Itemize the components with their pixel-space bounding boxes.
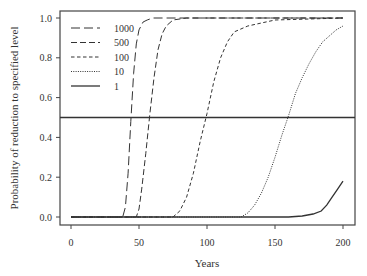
y-axis-title: Probability of reduction to specified le…: [8, 27, 20, 210]
legend-label: 500: [114, 37, 129, 48]
y-tick-label: 1.0: [40, 13, 53, 24]
plot-lines: [60, 18, 355, 217]
x-tick-label: 50: [134, 237, 144, 248]
legend: 1000500100101: [71, 23, 134, 92]
x-axis: 050100150200: [69, 225, 351, 248]
x-tick-label: 100: [200, 237, 215, 248]
y-tick-label: 0.2: [40, 172, 53, 183]
y-tick-label: 0.6: [40, 92, 53, 103]
x-tick-label: 150: [268, 237, 283, 248]
legend-label: 1: [114, 81, 119, 92]
chart: 0.00.20.40.60.81.0 050100150200 10005001…: [0, 0, 367, 276]
legend-label: 1000: [114, 23, 134, 34]
series-line-10: [71, 26, 343, 217]
x-axis-title: Years: [195, 257, 220, 269]
x-tick-label: 0: [69, 237, 74, 248]
legend-label: 10: [114, 66, 124, 77]
y-axis: 0.00.20.40.60.81.0: [40, 13, 61, 223]
x-tick-label: 200: [336, 237, 351, 248]
y-tick-label: 0.4: [40, 132, 53, 143]
series-line-1: [71, 181, 343, 217]
legend-label: 100: [114, 52, 129, 63]
y-tick-label: 0.8: [40, 52, 53, 63]
y-tick-label: 0.0: [40, 212, 53, 223]
